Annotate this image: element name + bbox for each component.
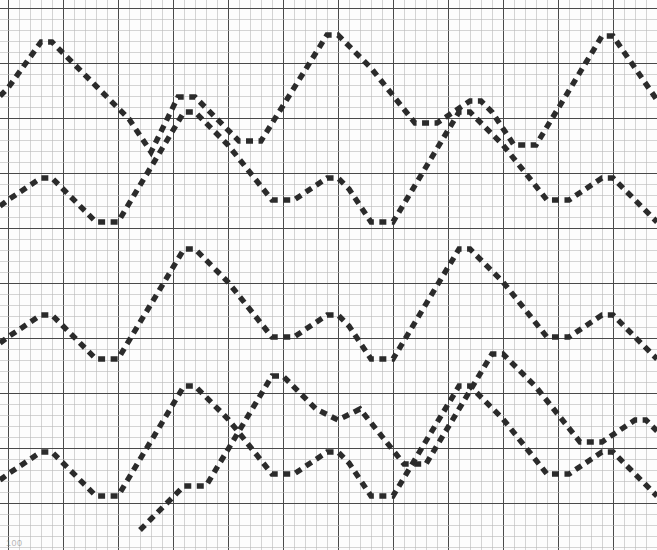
trace-path [0,112,657,222]
trace-path [0,35,657,152]
trace-path [0,386,657,496]
bottom-scale-label: 100 [6,538,23,548]
chart-recorder-page: 100 [0,0,657,550]
trace-path [0,249,657,359]
waveform-traces [0,0,657,550]
trace-path [140,354,657,530]
